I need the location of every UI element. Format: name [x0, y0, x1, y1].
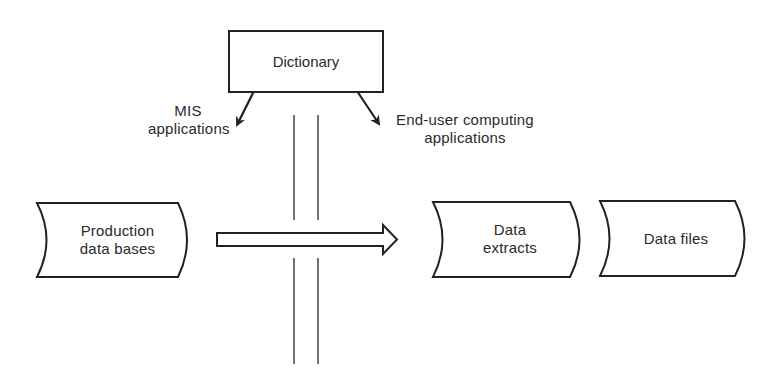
- boundary-lines-upper: [294, 115, 318, 220]
- mis-label-line2: applications: [148, 120, 228, 138]
- flow-arrow: [217, 225, 397, 254]
- data-extracts-line1: Data: [455, 221, 565, 239]
- data-extracts-line2: extracts: [455, 239, 565, 257]
- dictionary-label: Dictionary: [273, 53, 340, 70]
- diagram-canvas: Dictionary MIS applications End-user com…: [0, 0, 780, 380]
- data-files-line1: Data files: [620, 230, 732, 248]
- arrow-to-mis: [237, 91, 254, 125]
- end-user-applications-label: End-user computing applications: [385, 111, 545, 147]
- end-user-label-line1: End-user computing: [385, 111, 545, 129]
- arrow-to-end-user: [357, 91, 379, 124]
- mis-label-line1: MIS: [148, 102, 228, 120]
- data-files-label: Data files: [620, 230, 732, 248]
- boundary-lines-lower: [294, 258, 318, 364]
- production-line2: data bases: [60, 240, 175, 258]
- mis-applications-label: MIS applications: [148, 102, 228, 138]
- dictionary-box: Dictionary: [228, 30, 384, 93]
- data-extracts-label: Data extracts: [455, 221, 565, 257]
- end-user-label-line2: applications: [385, 129, 545, 147]
- diagram-graphics: [0, 0, 780, 380]
- production-line1: Production: [60, 222, 175, 240]
- production-data-bases-label: Production data bases: [60, 222, 175, 258]
